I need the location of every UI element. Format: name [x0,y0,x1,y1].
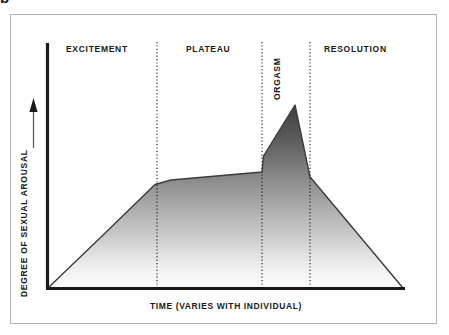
phase-label-resolution: RESOLUTION [324,44,387,54]
y-axis-up-arrow-icon [29,98,37,148]
y-axis-title: DEGREE OF SEXUAL AROUSAL [19,149,29,297]
figure-page: p [0,0,449,335]
arousal-area-fill [48,105,403,288]
phase-label-plateau: PLATEAU [186,44,230,54]
phase-label-excitement: EXCITEMENT [66,44,128,54]
x-axis-title: TIME (VARIES WITH INDIVIDUAL) [47,301,405,311]
phase-label-orgasm: ORGASM [272,58,282,100]
